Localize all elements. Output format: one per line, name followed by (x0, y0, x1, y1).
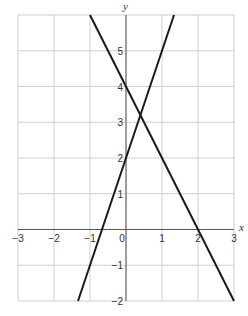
x-tick-label: 0 (119, 233, 125, 244)
x-tick-label: −3 (12, 233, 24, 244)
line-chart: −3−2−10123−2−112345 x y (0, 0, 248, 316)
x-tick-label: 3 (231, 233, 237, 244)
y-tick-label: 5 (117, 46, 123, 57)
y-tick-label: 1 (117, 189, 123, 200)
y-axis-label: y (122, 0, 128, 12)
y-tick-label: −1 (112, 260, 124, 271)
x-axis-label: x (238, 221, 244, 233)
y-tick-label: −2 (112, 296, 124, 307)
x-tick-label: 1 (159, 233, 165, 244)
y-tick-label: 2 (117, 153, 123, 164)
y-tick-label: 4 (117, 82, 123, 93)
y-tick-label: 3 (117, 117, 123, 128)
x-tick-label: −1 (84, 233, 96, 244)
x-tick-label: −2 (48, 233, 60, 244)
